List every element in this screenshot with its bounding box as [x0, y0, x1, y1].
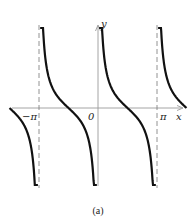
tick-label-neg-pi: −π: [22, 111, 37, 122]
tick-label-pi: π: [159, 111, 167, 122]
x-axis-label: x: [176, 111, 182, 122]
cot-branch-2: [99, 28, 156, 185]
cot-branch-1: [40, 28, 97, 185]
figure-caption: (a): [0, 205, 196, 216]
cot-graph: −π 0 π x y: [0, 0, 196, 224]
tick-label-zero: 0: [88, 111, 95, 122]
cot-branch-3: [158, 28, 186, 108]
y-axis-label: y: [100, 18, 107, 29]
y-axis: [96, 25, 101, 186]
